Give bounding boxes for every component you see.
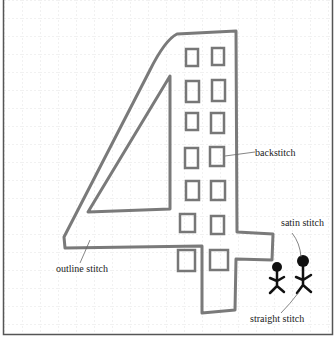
embroidery-diagram: backstitch outline stitch satin stitch s… [0,0,334,339]
label-backstitch: backstitch [255,147,296,158]
label-straight-stitch: straight stitch [250,313,304,324]
label-outline-stitch: outline stitch [56,263,108,274]
label-satin-stitch: satin stitch [281,217,324,228]
grid-background [3,0,332,334]
